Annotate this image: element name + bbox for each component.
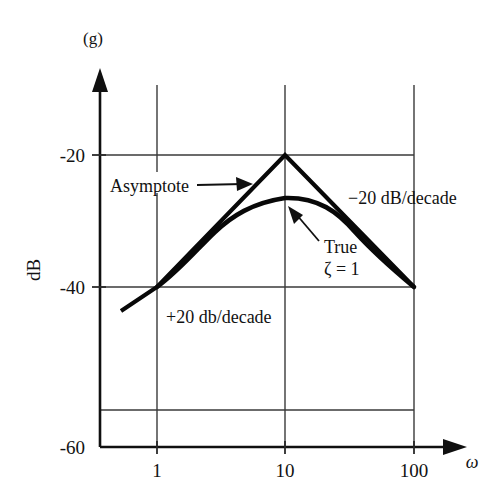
y-axis-arrowhead [92,68,108,92]
slope-label-falling: −20 dB/decade [348,188,457,208]
slope-label-rising: +20 db/decade [166,307,272,327]
x-tick-label-10: 10 [276,460,295,481]
x-axis-arrowhead [443,439,467,455]
x-tick-label-1: 1 [152,460,162,481]
y-tick-label-minus40: -40 [60,277,85,298]
asymptote-label: Asymptote [110,176,189,196]
asymptote-arrow [197,177,253,191]
y-axis-title: dB [23,259,44,281]
bode-plot-figure: (g) -20 -40 -60 1 10 100 dB ω Asymptote … [0,0,493,494]
panel-label: (g) [83,29,103,48]
x-tick-label-100: 100 [400,460,429,481]
true-damping-label: ζ = 1 [324,259,360,279]
axes [100,80,455,447]
plot-canvas: (g) -20 -40 -60 1 10 100 dB ω Asymptote … [0,0,493,494]
true-arrow [288,206,319,241]
x-axis-title: ω [466,452,479,472]
y-tick-label-minus60: -60 [60,437,85,458]
y-tick-label-minus20: -20 [60,145,85,166]
gridlines [100,85,414,447]
true-label: True [324,237,357,257]
